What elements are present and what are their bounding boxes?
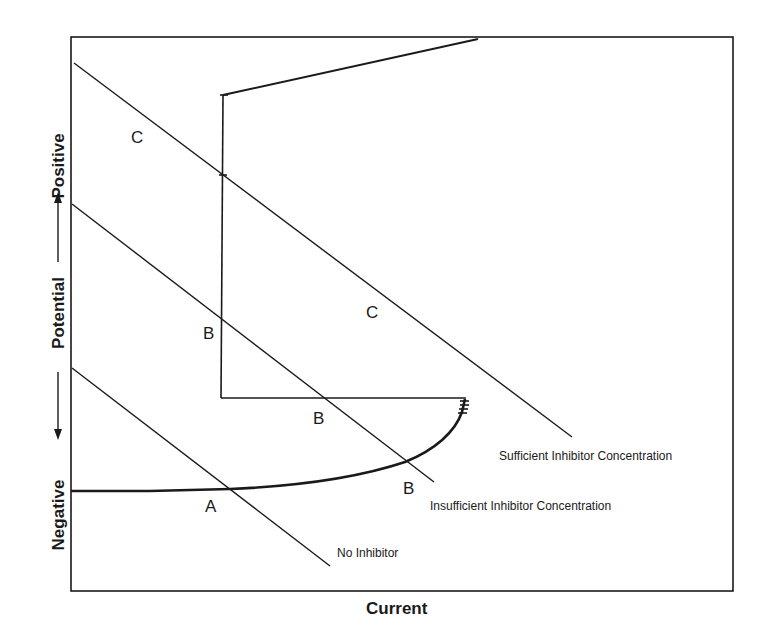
point-b-right: B <box>403 479 414 498</box>
label-sufficient: Sufficient Inhibitor Concentration <box>499 449 672 463</box>
polarization-diagram: C C B B B A Sufficient Inhibitor Concent… <box>0 0 764 636</box>
line-insufficient-inhibitor <box>72 204 434 482</box>
down-arrow-icon <box>54 372 62 440</box>
point-b-mid: B <box>313 409 324 428</box>
point-a: A <box>205 497 217 516</box>
y-axis-label-negative: Negative <box>49 480 68 551</box>
plot-frame <box>71 37 733 591</box>
label-insufficient: Insufficient Inhibitor Concentration <box>430 499 611 513</box>
line-sufficient-inhibitor <box>74 63 572 437</box>
y-axis-label-potential: Potential <box>49 277 68 349</box>
y-axis-label-positive: Positive <box>49 133 68 198</box>
point-c-right: C <box>366 303 378 322</box>
point-b-left: B <box>203 324 214 343</box>
x-axis-label: Current <box>366 599 428 618</box>
up-arrow-icon <box>54 192 62 262</box>
point-c-left: C <box>131 128 143 147</box>
label-no-inhibitor: No Inhibitor <box>337 546 398 560</box>
